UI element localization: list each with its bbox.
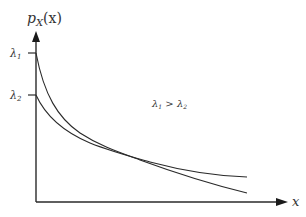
x-axis-arrow-icon (276, 198, 288, 206)
y-axis-label: pX(x) (27, 10, 62, 28)
exponential-pdf-chart: pX(x) x λ1 λ2 λ1 > λ2 (0, 0, 306, 217)
tick-label-lambda1: λ1 (9, 47, 21, 61)
x-axis-label: x (292, 194, 300, 209)
annotation-lambda-comparison: λ1 > λ2 (151, 98, 187, 110)
curve-lambda2 (36, 95, 247, 177)
tick-label-lambda2: λ2 (9, 89, 22, 103)
y-axis-arrow-icon (32, 31, 40, 42)
curve-lambda1 (36, 53, 247, 193)
